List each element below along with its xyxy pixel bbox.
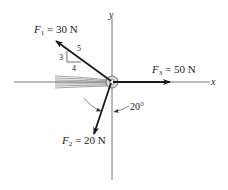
angle-arc-right <box>114 106 129 112</box>
force-label-f1: F1 = 30 N <box>33 23 78 37</box>
force-label-f3: F3 = 50 N <box>151 63 196 77</box>
angle-arc-left <box>84 98 101 111</box>
angle-label: 20° <box>130 101 144 112</box>
force-arrow-f2 <box>94 83 111 134</box>
slope-hypotenuse-label: 5 <box>77 44 81 53</box>
slope-rise-label: 3 <box>59 53 63 62</box>
force-arrow-f1 <box>56 41 111 81</box>
x-axis-label: x <box>210 76 216 87</box>
slope-run-label: 4 <box>72 64 76 73</box>
force-diagram: y x 3 4 5 F1 = 30 N F3 = 50 N F2 = 20 N … <box>0 0 228 190</box>
y-axis-label: y <box>108 9 114 20</box>
force-label-f2: F2 = 20 N <box>61 134 106 148</box>
